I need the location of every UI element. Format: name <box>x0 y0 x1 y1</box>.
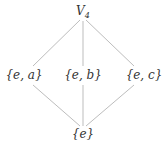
node-v4-label: V <box>76 4 85 18</box>
node-e: {e} <box>72 127 94 141</box>
node-e-b-label: {e, b} <box>64 68 102 82</box>
edge-ec-bottom <box>86 85 134 126</box>
node-e-label: {e} <box>72 127 94 141</box>
edge-top-ea <box>33 20 80 66</box>
node-e-c-label: {e, c} <box>126 68 163 82</box>
node-e-a: {e, a} <box>5 68 42 82</box>
edge-top-ec <box>86 20 134 66</box>
node-v4: V4 <box>76 4 90 20</box>
node-v4-subscript: 4 <box>85 11 90 20</box>
edge-ea-bottom <box>33 85 80 126</box>
node-e-a-label: {e, a} <box>5 68 42 82</box>
node-e-c: {e, c} <box>126 68 163 82</box>
node-e-b: {e, b} <box>64 68 102 82</box>
